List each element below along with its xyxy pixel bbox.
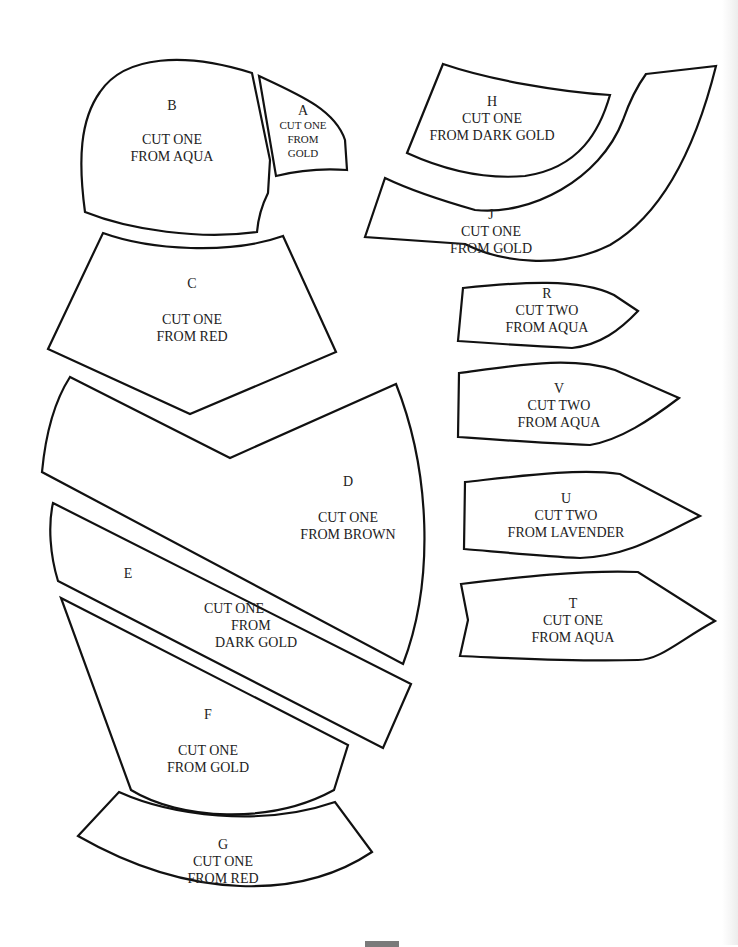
cut-quantity: CUT ONE bbox=[131, 131, 214, 148]
cut-quantity: CUT ONE bbox=[532, 612, 615, 629]
piece-v-label: V CUT TWO FROM AQUA bbox=[518, 380, 601, 431]
fabric-color: FROM AQUA bbox=[532, 629, 615, 646]
piece-t-label: T CUT ONE FROM AQUA bbox=[532, 595, 615, 646]
fabric-color: FROM GOLD bbox=[450, 240, 532, 257]
fabric-color: FROM GOLD bbox=[167, 759, 249, 776]
piece-c-label: C CUT ONE FROM RED bbox=[156, 275, 227, 345]
fabric-color: FROM DARK GOLD bbox=[429, 127, 554, 144]
fabric-color: FROM BROWN bbox=[300, 526, 395, 543]
piece-letter: E bbox=[124, 565, 133, 582]
piece-letter: R bbox=[506, 285, 589, 302]
cut-quantity: CUT TWO bbox=[508, 507, 625, 524]
fabric-color: FROM AQUA bbox=[506, 319, 589, 336]
piece-letter: H bbox=[429, 93, 554, 110]
cut-quantity: CUT ONE bbox=[300, 509, 395, 526]
cut-quantity: CUT TWO bbox=[518, 397, 601, 414]
spacer bbox=[156, 292, 227, 311]
fabric-color: FROM AQUA bbox=[131, 148, 214, 165]
fabric-color: GOLD bbox=[279, 146, 326, 160]
fabric-color: FROM LAVENDER bbox=[508, 524, 625, 541]
piece-letter: T bbox=[532, 595, 615, 612]
piece-letter: U bbox=[508, 490, 625, 507]
cut-quantity: CUT ONE bbox=[187, 853, 258, 870]
fabric-color: FROM RED bbox=[187, 870, 258, 887]
cut-quantity: CUT TWO bbox=[506, 302, 589, 319]
spacer bbox=[131, 114, 214, 131]
piece-e-label: CUT ONE FROM DARK GOLD bbox=[204, 600, 297, 651]
piece-letter: G bbox=[187, 836, 258, 853]
fabric-from: FROM bbox=[204, 617, 297, 634]
piece-u-label: U CUT TWO FROM LAVENDER bbox=[508, 490, 625, 541]
cut-quantity: CUT ONE bbox=[450, 223, 532, 240]
piece-letter: J bbox=[450, 206, 532, 223]
piece-f-label: F CUT ONE FROM GOLD bbox=[167, 706, 249, 776]
page-edge-marker bbox=[365, 941, 399, 947]
fabric-color-wrap: DARK GOLD bbox=[204, 634, 297, 651]
cut-quantity: CUT ONE bbox=[279, 118, 326, 132]
piece-r-label: R CUT TWO FROM AQUA bbox=[506, 285, 589, 336]
cut-quantity: CUT ONE bbox=[429, 110, 554, 127]
piece-d-label: D CUT ONE FROM BROWN bbox=[300, 473, 395, 543]
piece-e-letter-label: E bbox=[124, 565, 133, 582]
cut-quantity: CUT ONE bbox=[167, 742, 249, 759]
fabric-color: DARK GOLD bbox=[215, 635, 297, 650]
spacer bbox=[300, 490, 395, 509]
piece-h-label: H CUT ONE FROM DARK GOLD bbox=[429, 93, 554, 144]
fabric-color: FROM AQUA bbox=[518, 414, 601, 431]
piece-j-label: J CUT ONE FROM GOLD bbox=[450, 206, 532, 257]
piece-letter: B bbox=[131, 97, 214, 114]
piece-g-label: G CUT ONE FROM RED bbox=[187, 836, 258, 887]
spacer bbox=[167, 723, 249, 742]
piece-letter: C bbox=[156, 275, 227, 292]
piece-b-label: B CUT ONE FROM AQUA bbox=[131, 97, 214, 165]
piece-letter: F bbox=[167, 706, 249, 723]
piece-letter: D bbox=[300, 473, 395, 490]
piece-letter: V bbox=[518, 380, 601, 397]
cut-quantity: CUT ONE bbox=[156, 311, 227, 328]
fabric-from: FROM bbox=[279, 132, 326, 146]
piece-letter: A bbox=[279, 104, 326, 118]
fabric-color: FROM RED bbox=[156, 328, 227, 345]
piece-a-label: A CUT ONE FROM GOLD bbox=[279, 104, 326, 160]
cut-quantity: CUT ONE bbox=[204, 600, 297, 617]
